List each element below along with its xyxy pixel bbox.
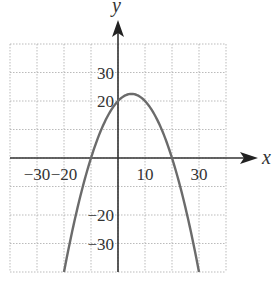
y-axis-label: y [110, 0, 121, 17]
x-tick-label: −20 [51, 165, 78, 184]
y-tick-label: −30 [87, 235, 114, 254]
x-tick-label: −30 [24, 165, 51, 184]
x-tick-label: 30 [191, 165, 208, 184]
y-tick-label: −20 [87, 206, 114, 225]
parabola-curve [64, 94, 199, 272]
x-axis-label: x [261, 146, 271, 168]
y-tick-label: 30 [97, 64, 114, 83]
axes [10, 20, 258, 272]
x-tick-label: 10 [137, 165, 154, 184]
parabola-chart: x y −30−2010303020−20−30 [0, 0, 275, 284]
